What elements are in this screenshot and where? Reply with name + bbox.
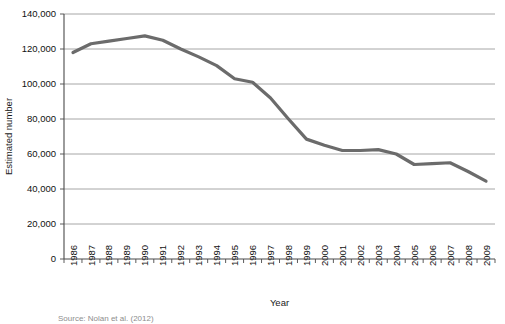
y-tick-label: 40,000 [27,183,56,194]
y-tick-label: 120,000 [22,43,56,54]
y-tick-label: 60,000 [27,148,56,159]
x-tick-label: 2003 [373,245,384,266]
y-tick-label: 100,000 [22,78,56,89]
x-tick-label: 2007 [445,245,456,266]
x-tick-label: 2009 [481,245,492,266]
y-tick-label: 140,000 [22,8,56,19]
x-tick-label: 1994 [211,245,222,266]
x-tick-label: 2004 [391,245,402,266]
x-tick-label: 1998 [283,245,294,266]
x-tick-label: 1999 [301,245,312,266]
x-tick-label: 2005 [409,245,420,266]
x-tick-label: 1997 [265,245,276,266]
y-axis-title: Estimated number [3,98,14,175]
x-tick-label: 1987 [86,245,97,266]
x-tick-label: 2001 [337,245,348,266]
x-tick-label: 2006 [427,245,438,266]
x-tick-label: 1996 [247,245,258,266]
x-tick-label: 1986 [68,245,79,266]
y-axis-tick-labels: 020,00040,00060,00080,000100,000120,0001… [22,8,56,264]
source-caption: Source: Nolan et al. (2012) [58,314,154,323]
data-line-series [73,36,486,181]
x-tick-label: 1988 [103,245,114,266]
gridlines-group [60,14,495,259]
x-tick-label: 1993 [193,245,204,266]
y-tick-label: 0 [51,253,56,264]
x-tick-label: 2008 [463,245,474,266]
line-chart: 020,00040,00060,00080,000100,000120,0001… [0,0,505,324]
x-tick-label: 1995 [229,245,240,266]
x-tick-label: 1990 [139,245,150,266]
x-tick-label: 1992 [175,245,186,266]
x-tick-label: 1989 [121,245,132,266]
chart-figure: 020,00040,00060,00080,000100,000120,0001… [0,0,505,324]
y-tick-label: 80,000 [27,113,56,124]
x-tick-label: 2002 [355,245,366,266]
y-tick-label: 20,000 [27,218,56,229]
x-tick-label: 2000 [319,245,330,266]
x-tick-label: 1991 [157,245,168,266]
x-axis-title: Year [270,297,289,308]
